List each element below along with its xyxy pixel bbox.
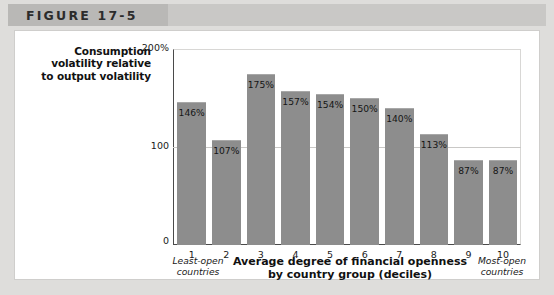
- figure-header-band: FIGURE 17-5: [8, 4, 546, 26]
- bar-value-label: 154%: [316, 99, 345, 110]
- axis-note-most-open-line-2: countries: [467, 266, 537, 277]
- bar: 113%: [420, 134, 449, 245]
- bar-slot: 113%: [417, 49, 452, 245]
- bar-value-label: 113%: [420, 139, 449, 150]
- bar-slot: 146%: [174, 49, 209, 245]
- axis-note-least-open-line-2: countries: [163, 266, 233, 277]
- bar-slot: 154%: [313, 49, 348, 245]
- bar-value-label: 140%: [385, 113, 414, 124]
- figure-label: FIGURE 17-5: [26, 8, 138, 23]
- bar-slot: 175%: [244, 49, 279, 245]
- bar: 140%: [385, 108, 414, 245]
- bar: 157%: [281, 91, 310, 245]
- y-tick-label-0: 0: [163, 235, 169, 246]
- y-axis-title-line-1: Consumption: [29, 45, 151, 57]
- axis-note-least-open: Least-open countries: [163, 255, 233, 277]
- y-axis-title-line-3: to output volatility: [29, 70, 151, 82]
- bar: 87%: [489, 160, 518, 245]
- bar-slot: 140%: [382, 49, 417, 245]
- axis-note-most-open-line-1: Most-open: [467, 255, 537, 266]
- bar: 150%: [350, 98, 379, 245]
- x-axis-title: Average degree of financial openness by …: [225, 255, 475, 281]
- figure-card: Consumption volatility relative to outpu…: [14, 30, 540, 280]
- bar: 107%: [212, 140, 241, 245]
- bar-slot: 87%: [486, 49, 521, 245]
- bar: 146%: [177, 102, 206, 245]
- bar-slot: 107%: [209, 49, 244, 245]
- bar: 154%: [316, 94, 345, 245]
- bar-slot: 157%: [278, 49, 313, 245]
- bars-layer: 146%107%175%157%154%150%140%113%87%87%: [174, 49, 520, 245]
- bar-slot: 87%: [451, 49, 486, 245]
- y-tick-label-200: 200%: [142, 42, 169, 53]
- bar: 175%: [247, 74, 276, 246]
- x-axis-title-line-1: Average degree of financial openness: [225, 255, 475, 268]
- bar-value-label: 157%: [281, 96, 310, 107]
- y-tick-label-100: 100: [151, 140, 169, 151]
- bar-value-label: 87%: [454, 165, 483, 176]
- plot-area: 200% 100 0 146%107%175%157%154%150%140%1…: [173, 49, 521, 245]
- bar-value-label: 150%: [350, 103, 379, 114]
- axis-note-most-open: Most-open countries: [467, 255, 537, 277]
- bar-slot: 150%: [347, 49, 382, 245]
- y-axis-title-line-2: volatility relative: [29, 57, 151, 69]
- bar-value-label: 146%: [177, 107, 206, 118]
- axis-note-least-open-line-1: Least-open: [163, 255, 233, 266]
- bar-value-label: 107%: [212, 145, 241, 156]
- bar: 87%: [454, 160, 483, 245]
- bar-value-label: 175%: [247, 79, 276, 90]
- x-axis-title-line-2: by country group (deciles): [225, 268, 475, 281]
- figure-root: FIGURE 17-5 Consumption volatility relat…: [0, 0, 554, 295]
- bar-value-label: 87%: [489, 165, 518, 176]
- y-axis-title: Consumption volatility relative to outpu…: [29, 45, 151, 82]
